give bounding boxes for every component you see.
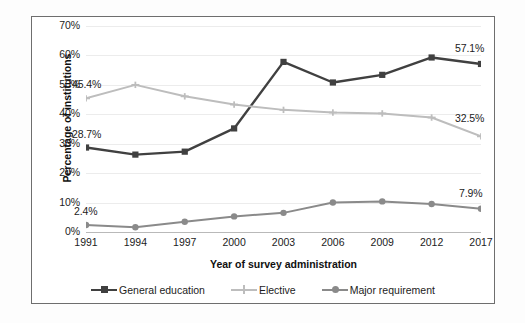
data-point <box>182 219 188 225</box>
value-label-elective-1991: 45.4% <box>72 78 101 90</box>
data-point <box>231 213 237 219</box>
value-label-major-requirement-2017: 7.9% <box>459 187 483 199</box>
data-point <box>231 125 237 131</box>
data-point <box>429 54 435 60</box>
x-tick-label-2009: 2009 <box>371 236 394 248</box>
gridline-0% <box>86 232 481 233</box>
y-tick-label: 60% <box>38 49 80 60</box>
y-tick-label: 20% <box>38 167 80 178</box>
data-point <box>182 149 188 155</box>
data-point <box>131 82 139 88</box>
series-canvas <box>86 26 481 232</box>
legend-label: Elective <box>259 284 296 296</box>
series-line <box>86 57 481 154</box>
legend-item-elective[interactable]: Elective <box>231 284 296 296</box>
legend-swatch-icon <box>91 285 117 295</box>
data-point <box>280 210 286 216</box>
x-axis-ticks: 199119941997200020032006200920122017 <box>86 236 481 252</box>
legend-label: General education <box>119 284 205 296</box>
data-point <box>280 59 286 65</box>
value-label-general-education-1991: 28.7% <box>72 128 101 140</box>
data-point <box>330 199 336 205</box>
legend-item-general-education[interactable]: General education <box>91 284 205 296</box>
series-elective <box>86 82 481 140</box>
x-tick-label-1994: 1994 <box>124 236 147 248</box>
value-label-general-education-2017: 57.1% <box>455 42 484 54</box>
data-point <box>428 201 434 207</box>
data-point <box>329 109 337 115</box>
legend-label: Major requirement <box>350 284 435 296</box>
y-tick-label: 70% <box>38 20 80 31</box>
data-point <box>330 79 336 85</box>
x-tick-label-2003: 2003 <box>272 236 295 248</box>
data-point <box>230 101 238 107</box>
value-label-elective-2017: 32.5% <box>455 112 484 124</box>
legend-swatch-icon <box>231 285 257 295</box>
y-tick-label: 40% <box>38 108 80 119</box>
x-tick-label-2012: 2012 <box>420 236 443 248</box>
data-point <box>86 222 89 228</box>
data-point <box>181 93 189 99</box>
data-point <box>379 198 385 204</box>
chart-legend: General educationElectiveMajor requireme… <box>31 284 495 296</box>
x-axis-title: Year of survey administration <box>86 258 481 270</box>
value-label-major-requirement-1991: 2.4% <box>74 205 98 217</box>
x-tick-label-2000: 2000 <box>222 236 245 248</box>
x-tick-label-2017: 2017 <box>469 236 492 248</box>
series-general-education <box>86 54 481 157</box>
data-point <box>378 110 386 116</box>
data-point <box>86 95 90 101</box>
x-tick-label-2006: 2006 <box>321 236 344 248</box>
legend-swatch-icon <box>322 285 348 295</box>
chart-figure: Percentage of institutions 0%10%20%30%40… <box>0 0 525 323</box>
data-point <box>379 72 385 78</box>
data-point <box>86 144 89 150</box>
x-tick-label-1997: 1997 <box>173 236 196 248</box>
plot-area: 45.4%28.7%2.4%57.1%32.5%7.9% <box>86 26 481 232</box>
legend-item-major-requirement[interactable]: Major requirement <box>322 284 435 296</box>
series-major-requirement <box>86 198 481 230</box>
data-point <box>478 61 481 67</box>
data-point <box>478 206 481 212</box>
data-point <box>132 224 138 230</box>
data-point <box>132 152 138 158</box>
x-tick-label-1991: 1991 <box>74 236 97 248</box>
data-point <box>280 107 288 113</box>
data-point <box>428 114 436 120</box>
